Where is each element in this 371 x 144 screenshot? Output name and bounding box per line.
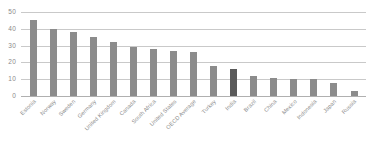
- bar: [170, 51, 177, 96]
- bar-slot: [224, 12, 244, 96]
- bar-slot: [324, 12, 344, 96]
- x-label-slot: Brazil: [244, 97, 264, 144]
- bar-slot: [163, 12, 183, 96]
- x-tick-label: China: [263, 99, 278, 114]
- bar: [210, 66, 217, 96]
- bar: [110, 42, 117, 96]
- bar-slot: [284, 12, 304, 96]
- bar: [230, 69, 237, 96]
- bar: [190, 52, 197, 96]
- x-label-slot: Japan: [324, 97, 344, 144]
- y-tick-label: 50: [8, 9, 16, 16]
- x-label-slot: Indonesia: [304, 97, 324, 144]
- bar-slot: [63, 12, 83, 96]
- bar-slot: [184, 12, 204, 96]
- bar: [50, 29, 57, 96]
- x-label-slot: Turkey: [204, 97, 224, 144]
- x-label-slot: Estonia: [23, 97, 43, 144]
- x-axis-category-labels: EstoniaNorwaySwedenGermanyUnited Kingdom…: [21, 97, 366, 144]
- y-axis-tick-labels: 01020304050: [0, 12, 19, 96]
- x-label-slot: Norway: [43, 97, 63, 144]
- bar: [290, 79, 297, 96]
- x-tick-label: Mexico: [281, 99, 298, 116]
- bar-series: [21, 12, 366, 96]
- bar: [130, 47, 137, 96]
- bar-slot: [264, 12, 284, 96]
- bar-slot: [344, 12, 364, 96]
- x-tick-label: Brazil: [243, 99, 257, 113]
- bar: [250, 76, 257, 96]
- bar-slot: [43, 12, 63, 96]
- x-label-slot: Mexico: [284, 97, 304, 144]
- bar: [150, 49, 157, 96]
- x-tick-label: Estonia: [19, 99, 37, 117]
- bar-slot: [244, 12, 264, 96]
- x-label-slot: Sweden: [63, 97, 83, 144]
- bar: [90, 37, 97, 96]
- x-label-slot: China: [264, 97, 284, 144]
- x-tick-label: Turkey: [201, 99, 217, 115]
- bar-slot: [143, 12, 163, 96]
- bar: [270, 78, 277, 96]
- bar-slot: [23, 12, 43, 96]
- y-tick-label: 10: [8, 76, 16, 83]
- y-tick-label: 0: [12, 93, 16, 100]
- x-label-slot: United Kingdom: [103, 97, 123, 144]
- plot-area: [21, 12, 366, 96]
- y-tick-label: 40: [8, 26, 16, 33]
- bar: [351, 91, 358, 96]
- x-tick-label: Japan: [323, 99, 338, 114]
- bar-slot: [83, 12, 103, 96]
- x-label-slot: India: [224, 97, 244, 144]
- x-tick-label: Russia: [342, 99, 358, 115]
- bar: [330, 83, 337, 96]
- x-label-slot: Russia: [344, 97, 364, 144]
- x-label-slot: OECD Average: [184, 97, 204, 144]
- bar-slot: [123, 12, 143, 96]
- y-tick-label: 30: [8, 42, 16, 49]
- bar-slot: [103, 12, 123, 96]
- bar-slot: [304, 12, 324, 96]
- bar-chart: 01020304050 EstoniaNorwaySwedenGermanyUn…: [0, 0, 371, 144]
- bar-slot: [204, 12, 224, 96]
- x-tick-label: India: [225, 99, 238, 112]
- bar: [310, 79, 317, 96]
- y-tick-label: 20: [8, 59, 16, 66]
- bar: [70, 32, 77, 96]
- bar: [30, 20, 37, 96]
